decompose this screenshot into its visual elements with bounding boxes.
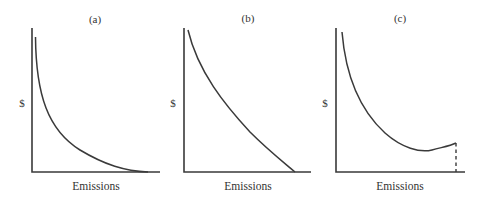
panel-c-axes [336, 28, 465, 172]
panel-c-y-axis-label: $ [322, 97, 328, 109]
panel-b-y-axis-label: $ [170, 97, 176, 109]
panel-b-curve [188, 30, 295, 172]
panel-b-x-axis-label: Emissions [224, 180, 272, 192]
panel-a-x-axis-label: Emissions [72, 180, 120, 192]
panel-b-axes [184, 28, 311, 172]
panel-b: (b) $ Emissions [170, 12, 311, 192]
three-panel-cost-curve-figure: (a) $ Emissions (b) $ Emissions (c) $ Em… [0, 0, 480, 199]
panel-c-x-axis-label: Emissions [376, 180, 424, 192]
panel-c: (c) $ Emissions [322, 12, 465, 192]
panel-a: (a) $ Emissions [19, 13, 160, 192]
panel-a-y-axis-label: $ [19, 97, 25, 109]
panel-a-curve [36, 37, 149, 172]
panel-c-title: (c) [394, 12, 407, 25]
panel-c-curve [342, 32, 456, 151]
panel-a-axes [32, 28, 160, 172]
panel-a-title: (a) [89, 13, 102, 26]
panel-b-title: (b) [242, 12, 255, 25]
